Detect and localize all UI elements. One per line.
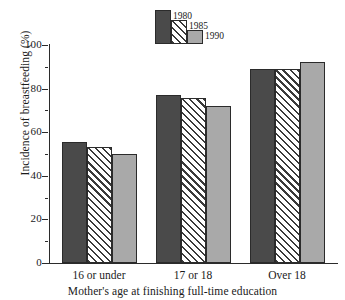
x-axis-tick-label: Over 18	[237, 268, 337, 282]
y-axis-tick-major	[42, 263, 48, 264]
legend-swatch-1990	[187, 30, 203, 44]
x-axis-tick-labels: 16 or under17 or 18Over 18	[50, 268, 332, 284]
y-axis-tick-minor	[45, 241, 48, 242]
bar-group	[156, 45, 231, 263]
y-axis-tick-label: 20	[8, 213, 42, 224]
y-axis-tick-minor	[45, 110, 48, 111]
legend-swatch-1985	[171, 20, 187, 44]
x-axis-title: Mother's age at finishing full-time educ…	[0, 285, 345, 298]
legend-swatch-1980	[155, 10, 171, 44]
y-axis-tick-major	[42, 176, 48, 177]
bar-1990-17-or-18	[206, 106, 231, 263]
y-axis-tick-minor	[45, 154, 48, 155]
y-axis-title: Incidence of breastfeeding (%)	[19, 8, 31, 198]
x-axis-tick-label: 17 or 18	[143, 268, 243, 282]
bar-1985-over-18	[275, 69, 300, 263]
bar-1990-over-18	[300, 62, 325, 263]
bar-1980-17-or-18	[156, 95, 181, 263]
bar-1980-over-18	[250, 69, 275, 263]
y-axis-tick-major	[42, 219, 48, 220]
bar-1990-16-or-under	[112, 154, 137, 263]
bar-1985-16-or-under	[87, 147, 112, 263]
y-axis-tick-major	[42, 89, 48, 90]
bar-1980-16-or-under	[62, 142, 87, 263]
y-axis-tick-major	[42, 132, 48, 133]
y-axis-tick-label: 0	[8, 257, 42, 268]
bar-1985-17-or-18	[181, 98, 206, 263]
y-axis-tick-minor	[45, 198, 48, 199]
plot-area	[50, 45, 332, 263]
bar-chart-figure: 1980 1985 1990 020406080100 Incidence of…	[0, 0, 345, 300]
x-axis-tick-label: 16 or under	[49, 268, 149, 282]
x-axis-line	[43, 263, 338, 264]
legend-label-1980: 1980	[173, 11, 192, 21]
y-axis-tick-minor	[45, 67, 48, 68]
legend-label-1985: 1985	[189, 21, 208, 31]
bar-group	[250, 45, 325, 263]
bar-group	[62, 45, 137, 263]
y-axis-tick-major	[42, 45, 48, 46]
legend-label-1990: 1990	[205, 31, 224, 41]
